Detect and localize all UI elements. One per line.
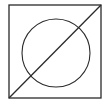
geometry-diagram bbox=[0, 0, 104, 105]
circle-outline bbox=[22, 19, 90, 87]
